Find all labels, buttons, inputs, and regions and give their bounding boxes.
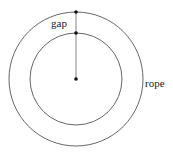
gap-label: gap <box>51 17 67 29</box>
inner-point-dot <box>74 31 78 35</box>
center-dot <box>74 77 78 81</box>
rope-gap-diagram: gap rope <box>0 0 173 153</box>
outer-point-dot <box>74 10 78 14</box>
rope-label: rope <box>145 77 165 89</box>
